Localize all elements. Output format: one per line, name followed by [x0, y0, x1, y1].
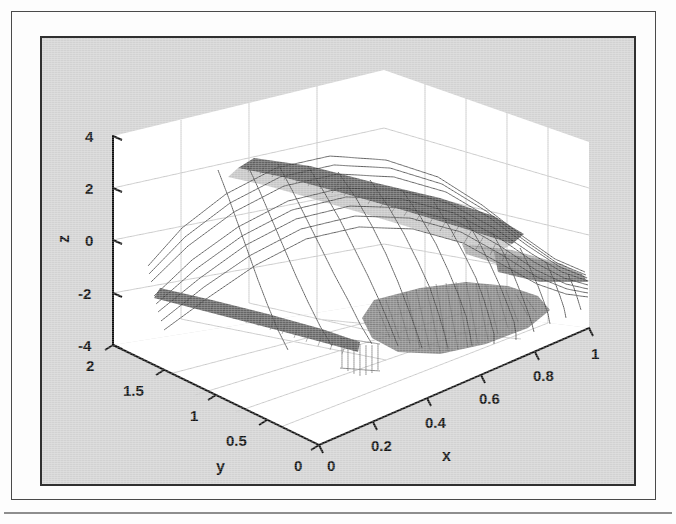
x-tick-label-0-8: 0.8: [533, 368, 554, 383]
x-tick-label-1: 1: [591, 346, 599, 361]
x-tick-label-0-4: 0.4: [425, 415, 446, 430]
y-tick-label-1: 1: [190, 408, 198, 423]
z-tick-label-2: 2: [85, 181, 93, 196]
z-tick-label-0: 0: [85, 233, 93, 248]
y-tick-label-0: 0: [294, 458, 302, 473]
3d-axes-plot[interactable]: [42, 38, 634, 484]
z-tick-label-4: 4: [85, 129, 93, 144]
x-tick-label-0: 0: [327, 458, 335, 473]
z-tick-label-neg4: -4: [78, 338, 91, 353]
matlab-figure-panel[interactable]: 4 2 0 -2 -4 2 1.5 1 0.5 0 0 0.2 0.4 0.6 …: [40, 36, 636, 486]
x-axis-title: x: [442, 448, 451, 464]
y-tick-label-2: 2: [86, 358, 94, 373]
x-tick-label-0-2: 0.2: [371, 438, 392, 453]
page-horizontal-rule: [4, 512, 672, 514]
x-tick-label-0-6: 0.6: [479, 391, 500, 406]
z-tick-label-neg2: -2: [78, 286, 91, 301]
y-axis-title: y: [216, 459, 225, 475]
z-axis-title: z: [56, 235, 72, 243]
scanned-page: 4 2 0 -2 -4 2 1.5 1 0.5 0 0 0.2 0.4 0.6 …: [0, 0, 676, 524]
y-tick-label-0-5: 0.5: [226, 433, 247, 448]
y-tick-label-1-5: 1.5: [123, 383, 144, 398]
